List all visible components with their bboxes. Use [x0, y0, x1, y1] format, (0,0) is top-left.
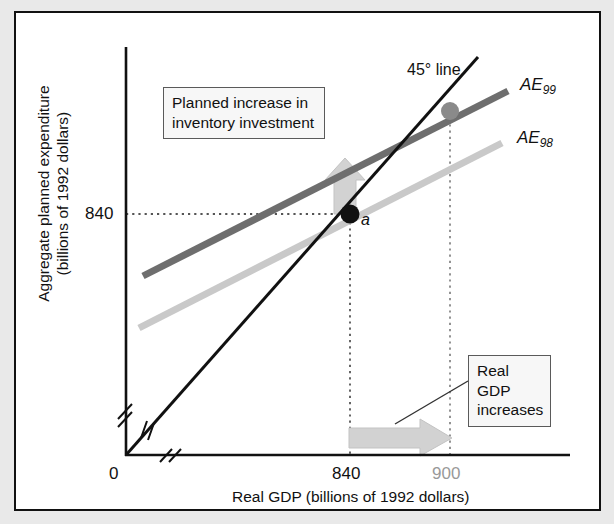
point-b-marker — [441, 102, 459, 120]
origin-label: 0 — [109, 464, 118, 483]
callout-real-gdp-increases: Real GDP increases — [468, 355, 551, 427]
label-ae98-subscript: 98 — [540, 136, 553, 150]
x-axis-tick-840: 840 — [332, 464, 360, 483]
label-ae98-base: AE — [517, 128, 540, 147]
callout-inventory-investment: Planned increase in inventory investment — [163, 87, 325, 139]
label-curve-ae98: AE98 — [517, 128, 553, 151]
point-a-marker — [341, 205, 360, 224]
figure-container: Aggregate planned expenditure (billions … — [0, 0, 614, 524]
x-axis-tick-900: 900 — [432, 464, 460, 483]
guide-lines — [126, 112, 450, 455]
arrow-gdp-increase — [349, 419, 452, 456]
y-axis-tick-840: 840 — [85, 204, 113, 223]
callout-gdp-line1: Real GDP — [477, 362, 511, 399]
label-ae99-base: AE — [520, 75, 543, 94]
callout-inventory-line1: Planned increase in — [172, 94, 308, 111]
label-ae99-subscript: 99 — [543, 83, 556, 97]
label-45-degree-line: 45° line — [407, 61, 461, 79]
x-axis-title: Real GDP (billions of 1992 dollars) — [232, 488, 470, 505]
label-curve-ae99: AE99 — [520, 75, 556, 98]
callout-inventory-line2: inventory investment — [172, 114, 314, 131]
leader-line-gdp-callout — [395, 381, 468, 424]
y-axis-title: Aggregate planned expenditure (billions … — [35, 44, 72, 344]
label-point-a: a — [361, 211, 370, 229]
callout-gdp-line2: increases — [477, 401, 543, 418]
